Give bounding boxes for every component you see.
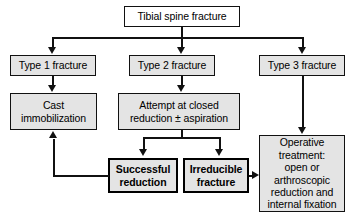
- edge-type3-to-operative-arrow: [298, 127, 306, 134]
- node-label: Cast immobilization: [21, 99, 86, 124]
- node-operative-treatment: Operative treatment: open or arthroscopi…: [259, 135, 345, 212]
- node-type-1-fracture: Type 1 fracture: [10, 55, 96, 76]
- node-successful-reduction: Successful reduction: [108, 158, 178, 193]
- node-label: Successful reduction: [116, 163, 170, 188]
- edge-type3-to-operative-line: [302, 76, 304, 128]
- edge-root-distribution-bar: [52, 37, 302, 39]
- node-irreducible-fracture: Irreducible fracture: [183, 158, 249, 193]
- edge-success-to-cast-arrow: [49, 131, 57, 138]
- edge-type2-to-attempt-arrow: [177, 85, 185, 92]
- node-label: Irreducible fracture: [190, 163, 243, 188]
- node-label: Tibial spine fracture: [137, 10, 226, 22]
- node-label: Type 3 fracture: [268, 59, 337, 71]
- node-label: Attempt at closed reduction ± aspiration: [130, 99, 228, 124]
- edge-irreducible-to-operative-arrow: [252, 171, 259, 179]
- node-type-2-fracture: Type 2 fracture: [129, 55, 215, 76]
- node-label: Operative treatment: open or arthroscopi…: [268, 136, 337, 210]
- node-attempt-closed-reduction: Attempt at closed reduction ± aspiration: [118, 93, 240, 130]
- edge-attempt-to-irreducible-arrow: [215, 149, 223, 156]
- edge-attempt-to-success-arrow: [139, 149, 147, 156]
- edge-success-to-cast-vertical: [53, 139, 55, 176]
- edge-root-to-type2-arrow: [177, 47, 185, 54]
- node-cast-immobilization: Cast immobilization: [10, 93, 97, 130]
- edge-success-to-cast-horizontal: [53, 175, 109, 177]
- edge-attempt-split-bar: [143, 137, 220, 139]
- node-label: Type 2 fracture: [138, 59, 207, 71]
- edge-root-to-type3-arrow: [298, 47, 306, 54]
- node-tibial-spine-fracture: Tibial spine fracture: [124, 6, 240, 27]
- edge-root-to-type1-arrow: [48, 47, 56, 54]
- node-type-3-fracture: Type 3 fracture: [259, 55, 345, 76]
- edge-type1-to-cast-arrow: [48, 85, 56, 92]
- node-label: Type 1 fracture: [19, 59, 88, 71]
- flowchart-canvas: Tibial spine fracture Type 1 fracture Ty…: [0, 0, 351, 220]
